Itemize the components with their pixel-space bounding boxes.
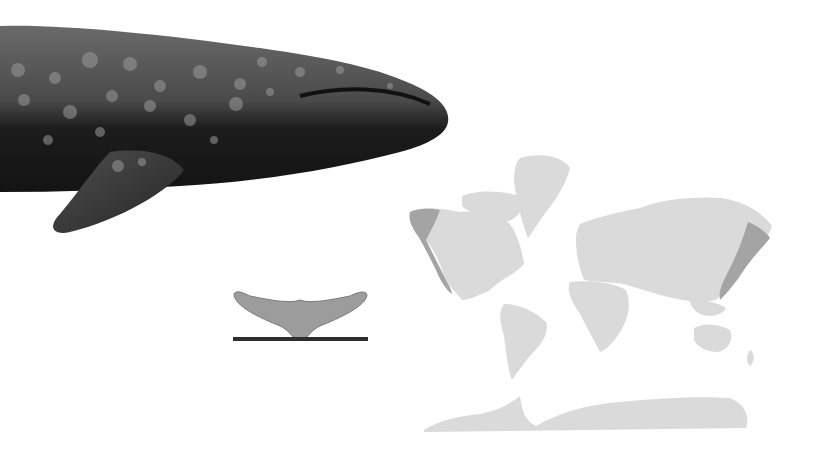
map-australia [694,324,731,352]
map-greenland [514,155,570,238]
map-southeast-asia [690,299,726,316]
map-antarctica [424,396,747,432]
map-africa [569,281,629,352]
figure-canvas [0,0,825,462]
map-south-america [500,304,547,380]
fluke-baseline [233,337,368,341]
whale-illustration [0,26,448,233]
distribution-map [409,155,772,432]
fluke-shape [234,292,367,338]
fluke-silhouette [233,292,368,341]
map-new-zealand [747,350,754,366]
